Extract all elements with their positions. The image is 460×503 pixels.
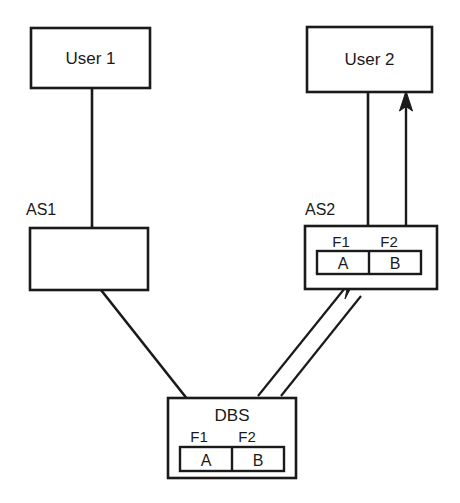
node-dbs[interactable]: DBS F1 F2 A B <box>168 398 296 478</box>
edge-dbs-to-as2-outline-right <box>281 296 361 396</box>
dbs-field-name-1: F2 <box>238 428 256 445</box>
user1-label: User 1 <box>65 49 115 68</box>
edge-dbs-to-as2-outline-left <box>258 288 345 396</box>
dbs-field-value-1: B <box>253 452 264 469</box>
node-as1[interactable]: AS1 <box>26 201 148 290</box>
as2-label: AS2 <box>305 201 335 218</box>
node-user2[interactable]: User 2 <box>307 27 432 92</box>
as2-field-name-0: F1 <box>332 233 350 250</box>
edge-as1-to-dbs <box>101 290 188 400</box>
diagram-canvas: User 1 User 2 AS1 AS2 F1 F2 A B DBS F <box>0 0 460 503</box>
dbs-field-name-0: F1 <box>190 428 208 445</box>
as2-field-value-1: B <box>390 255 401 272</box>
as1-label: AS1 <box>26 201 56 218</box>
as2-field-name-1: F2 <box>380 233 398 250</box>
node-user1[interactable]: User 1 <box>31 28 150 88</box>
dbs-label: DBS <box>215 406 250 425</box>
diagram-svg: User 1 User 2 AS1 AS2 F1 F2 A B DBS F <box>0 0 460 503</box>
dbs-field-value-0: A <box>201 452 212 469</box>
user2-label: User 2 <box>344 50 394 69</box>
as1-box[interactable] <box>30 228 148 290</box>
as2-field-value-0: A <box>338 255 349 272</box>
node-as2[interactable]: AS2 F1 F2 A B <box>305 201 437 289</box>
